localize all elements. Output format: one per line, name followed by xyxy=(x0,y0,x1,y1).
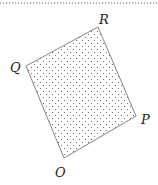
diagram-canvas: O P R Q xyxy=(0,0,158,185)
vertex-label-p: P xyxy=(140,112,150,127)
vertex-label-q: Q xyxy=(10,60,21,75)
vertex-label-r: R xyxy=(98,12,109,27)
quadrilateral-opqr xyxy=(26,27,136,158)
vertex-label-o: O xyxy=(55,165,66,180)
